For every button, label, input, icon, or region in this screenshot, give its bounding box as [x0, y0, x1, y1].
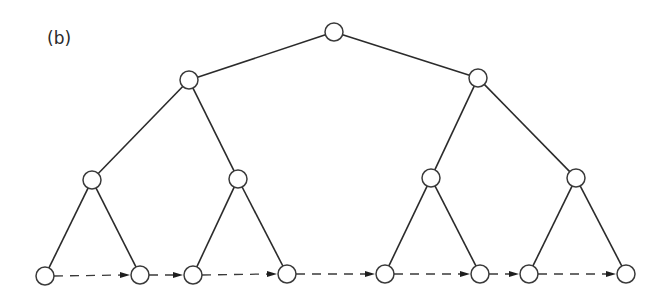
tree-edge: [343, 35, 470, 76]
tree-edge: [198, 35, 326, 77]
tree-edge: [435, 86, 474, 170]
tree-edge: [533, 186, 572, 266]
internal-node: [422, 169, 440, 187]
tree-edge: [484, 84, 569, 171]
tree-edge: [98, 86, 182, 173]
leaf-node: [376, 265, 394, 283]
leaf-node: [278, 265, 296, 283]
arrow-head-icon: [509, 271, 519, 277]
leaf-node: [184, 266, 202, 284]
leaf-node: [131, 266, 149, 284]
leaf-node: [471, 265, 489, 283]
binary-tree-diagram: [0, 0, 667, 301]
internal-node: [180, 71, 198, 89]
arrow-head-icon: [120, 272, 130, 278]
leaf-node: [617, 265, 635, 283]
leaf-node: [36, 267, 54, 285]
internal-node: [567, 169, 585, 187]
tree-edge: [193, 88, 234, 171]
leaf-node: [520, 265, 538, 283]
leaf-link-line: [54, 275, 122, 276]
leaf-link-line: [202, 274, 269, 275]
root-node: [325, 23, 343, 41]
tree-edge: [96, 188, 136, 267]
arrow-head-icon: [606, 271, 616, 277]
internal-node: [83, 171, 101, 189]
arrow-head-icon: [173, 272, 183, 278]
tree-edge: [580, 186, 622, 266]
arrow-head-icon: [365, 271, 375, 277]
tree-edge: [49, 188, 88, 268]
internal-node: [229, 170, 247, 188]
tree-edge: [197, 187, 234, 267]
tree-edge: [242, 187, 283, 266]
tree-edge: [389, 186, 427, 266]
tree-edge: [435, 186, 476, 266]
arrow-head-icon: [267, 271, 277, 277]
arrow-head-icon: [460, 271, 470, 277]
internal-node: [469, 69, 487, 87]
tree-edges: [49, 35, 622, 268]
